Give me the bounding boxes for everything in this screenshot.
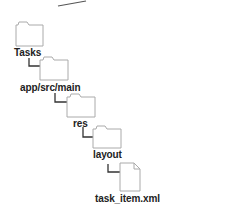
connector-line [29,58,40,66]
folder-icon-layout [93,126,121,148]
file-icon-task-item-xml [120,163,140,191]
tree-diagram [0,0,227,208]
decorative-line [58,1,86,6]
folder-icon-app-src-main [40,57,68,80]
node-label-app-src-main: app/src/main [20,82,81,93]
connector-line [108,164,120,172]
node-label-task-item-xml: task_item.xml [95,193,160,204]
folder-icon-res [67,94,95,117]
folder-icon-tasks [16,22,43,46]
connector-line [55,93,67,102]
node-label-res: res [73,118,88,129]
node-label-tasks: Tasks [14,47,41,58]
node-label-layout: layout [93,149,122,160]
